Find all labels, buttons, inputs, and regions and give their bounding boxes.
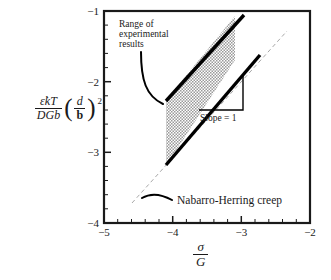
y-axis-label: ε̇kT DGb ( d b ) 2 — [6, 95, 102, 121]
x-tick-label-0: −5 — [98, 226, 110, 238]
inner-numerator: d — [75, 95, 85, 108]
x-axis-label-fraction: σ G — [193, 240, 208, 268]
plot-canvas: −5 −4 −3 −2 −1 −2 −3 −4 Range of experim… — [0, 0, 331, 280]
range-label-line-3: results — [119, 39, 144, 49]
x-tick-label-1: −4 — [167, 226, 179, 238]
range-label-line-1: Range of — [119, 19, 154, 29]
x-tick-label-2: −3 — [235, 226, 247, 238]
y-tick-label-3: −4 — [87, 217, 99, 229]
y-axis-label-numerator: ε̇kT — [38, 95, 59, 108]
nabarro-herring-label: Nabarro-Herring creep — [177, 194, 282, 207]
open-paren: ( — [64, 95, 72, 120]
figure-root: −5 −4 −3 −2 −1 −2 −3 −4 Range of experim… — [0, 0, 331, 280]
x-axis-label-denominator: G — [193, 255, 208, 269]
x-axis-label-numerator: σ — [194, 240, 206, 254]
y-axis-label-exponent: 2 — [98, 96, 103, 106]
nabarro-label-leader-line — [142, 195, 172, 200]
y-tick-label-0: −1 — [87, 5, 99, 17]
y-axis-label-main-fraction: ε̇kT DGb — [35, 95, 62, 121]
y-axis-label-denominator: DGb — [35, 109, 62, 122]
close-paren: ) — [87, 95, 95, 120]
y-axis-label-inner-fraction: d b — [74, 95, 85, 121]
range-label-leader-line — [141, 52, 163, 104]
y-tick-label-1: −2 — [87, 76, 99, 88]
x-axis-label: σ G — [193, 240, 208, 268]
range-label-line-2: experimental — [119, 29, 169, 39]
inner-denominator: b — [74, 109, 85, 122]
y-tick-label-2: −3 — [87, 146, 99, 158]
slope-label: Slope = 1 — [200, 113, 237, 123]
x-tick-label-3: −2 — [304, 226, 316, 238]
